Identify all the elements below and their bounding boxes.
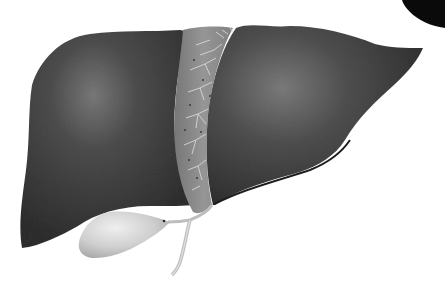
corner-glyph-shape: [402, 0, 445, 28]
liver-right-lobe: [207, 25, 423, 205]
liver-illustration: [0, 0, 445, 295]
gallbladder-duct-opening: [163, 220, 166, 223]
gallbladder: [79, 212, 170, 258]
bile-duct: [168, 205, 212, 275]
illustration-canvas: Liver with cross-section and gallbladder: [0, 0, 445, 295]
